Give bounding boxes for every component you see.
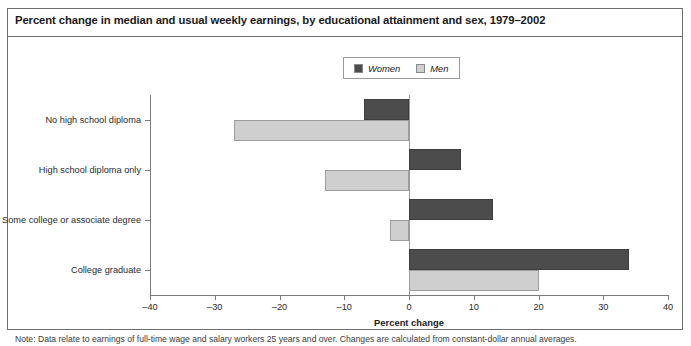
x-axis-tick	[150, 295, 151, 300]
x-axis-tick	[603, 295, 604, 300]
bar-men	[234, 120, 409, 141]
category-label: College graduate	[71, 265, 141, 275]
x-axis-tick-label: –30	[207, 302, 222, 312]
category-label: No high school diploma	[45, 115, 141, 125]
category-label: High school diploma only	[39, 165, 141, 175]
bar-women	[409, 249, 629, 270]
x-axis-tick	[539, 295, 540, 300]
legend-swatch-icon	[354, 64, 363, 73]
bar-women	[409, 199, 493, 220]
bar-men	[390, 220, 409, 241]
legend-label: Women	[368, 63, 400, 74]
x-axis-tick	[409, 295, 410, 300]
x-axis-tick	[215, 295, 216, 300]
x-axis-tick-label: 10	[469, 302, 479, 312]
figure-note: Note: Data relate to earnings of full-ti…	[15, 334, 577, 344]
page-title: Percent change in median and usual weekl…	[15, 14, 545, 26]
x-axis-tick	[344, 295, 345, 300]
x-axis-tick-label: 0	[406, 302, 411, 312]
figure-panel: Percent change in median and usual weekl…	[0, 0, 691, 346]
legend-label: Men	[430, 63, 448, 74]
x-axis-tick	[280, 295, 281, 300]
x-axis-tick-label: –20	[272, 302, 287, 312]
x-axis-tick-label: 40	[663, 302, 673, 312]
x-axis-tick-label: –10	[337, 302, 352, 312]
x-axis-tick-label: 20	[533, 302, 543, 312]
y-axis-tick	[145, 220, 150, 221]
x-axis-tick-label: 30	[598, 302, 608, 312]
bar-men	[325, 170, 409, 191]
bar-women	[364, 99, 409, 120]
y-axis-tick	[145, 170, 150, 171]
title-divider	[8, 36, 682, 37]
y-axis-tick	[145, 270, 150, 271]
legend-entry-women[interactable]: Women	[354, 63, 400, 74]
category-label: Some college or associate degree	[2, 215, 141, 225]
legend-swatch-icon	[416, 64, 425, 73]
bar-women	[409, 149, 461, 170]
x-axis-tick-label: –40	[142, 302, 157, 312]
chart-legend: WomenMen	[343, 57, 460, 79]
x-axis-tick	[668, 295, 669, 300]
legend-entry-men[interactable]: Men	[416, 63, 448, 74]
y-axis-line	[150, 95, 151, 295]
bar-men	[409, 270, 539, 291]
x-axis-title: Percent change	[374, 317, 444, 328]
note-divider	[8, 329, 682, 330]
chart-plot-area: Percent change –40–30–20–10010203040No h…	[150, 95, 668, 295]
y-axis-tick	[145, 120, 150, 121]
x-axis-tick	[474, 295, 475, 300]
